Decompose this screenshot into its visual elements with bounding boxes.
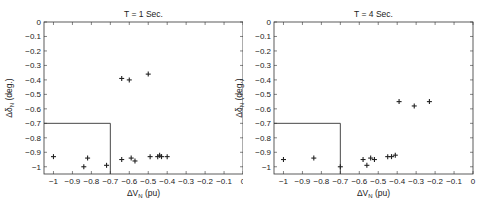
- x-tick-label: −0.5: [140, 177, 156, 186]
- chart-panel-t1: −1−0.9−0.8−0.7−0.6−0.5−0.4−0.3−0.2−0.100…: [0, 0, 243, 202]
- plot-frame: [274, 22, 473, 174]
- x-axis-label: ΔVN (pu): [127, 188, 160, 199]
- y-axis-label: ΔδN (deg.): [234, 78, 245, 118]
- data-point: [338, 164, 343, 169]
- data-point: [361, 157, 366, 162]
- x-tick-label: −0.9: [65, 177, 81, 186]
- data-point: [132, 158, 137, 163]
- chart-title: T = 1 Sec.: [124, 9, 163, 19]
- y-tick-label: −0.8: [25, 134, 41, 143]
- data-point: [146, 72, 151, 77]
- y-tick-label: −0.4: [255, 76, 271, 85]
- x-axis-label: ΔVN (pu): [357, 188, 390, 199]
- region-box: [274, 123, 340, 174]
- x-tick-label: −1: [49, 177, 59, 186]
- data-point: [119, 157, 124, 162]
- data-point: [104, 163, 109, 168]
- y-tick-label: −0.8: [255, 134, 271, 143]
- data-point: [412, 103, 417, 108]
- y-tick-label: 0: [37, 18, 42, 27]
- data-point: [281, 157, 286, 162]
- x-tick-label: −0.6: [121, 177, 137, 186]
- data-point: [364, 163, 369, 168]
- region-box: [44, 123, 110, 174]
- scatter-chart-t4: −1−0.9−0.8−0.7−0.6−0.5−0.4−0.3−0.2−0.100…: [230, 0, 487, 202]
- plot-frame: [44, 22, 243, 174]
- y-tick-label: −0.6: [255, 105, 271, 114]
- x-tick-label: −0.3: [178, 177, 194, 186]
- y-tick-label: −0.7: [255, 119, 271, 128]
- y-tick-label: −0.5: [25, 90, 41, 99]
- x-tick-label: 0: [471, 177, 476, 186]
- x-tick-label: −0.3: [408, 177, 424, 186]
- x-tick-label: −0.2: [427, 177, 443, 186]
- y-tick-label: −1: [32, 163, 42, 172]
- y-axis-label: ΔδN (deg.): [4, 78, 15, 118]
- y-tick-label: −0.9: [255, 148, 271, 157]
- x-tick-label: −0.2: [197, 177, 213, 186]
- data-point: [129, 156, 134, 161]
- scatter-chart-t1: −1−0.9−0.8−0.7−0.6−0.5−0.4−0.3−0.2−0.100…: [0, 0, 243, 202]
- x-tick-label: −0.6: [351, 177, 367, 186]
- data-point: [51, 154, 56, 159]
- x-tick-label: −0.7: [332, 177, 348, 186]
- y-tick-label: −0.2: [255, 47, 271, 56]
- x-tick-label: −0.8: [83, 177, 99, 186]
- y-tick-label: −0.6: [25, 105, 41, 114]
- y-tick-label: −0.1: [255, 32, 271, 41]
- y-tick-label: −0.3: [255, 61, 271, 70]
- data-point: [165, 154, 170, 159]
- y-tick-label: −0.7: [25, 119, 41, 128]
- x-tick-label: −0.5: [370, 177, 386, 186]
- x-tick-label: −1: [279, 177, 289, 186]
- y-tick-label: 0: [267, 18, 272, 27]
- data-point: [397, 99, 402, 104]
- y-tick-label: −0.4: [25, 76, 41, 85]
- y-tick-label: −0.2: [25, 47, 41, 56]
- x-tick-label: −0.4: [159, 177, 175, 186]
- data-point: [85, 156, 90, 161]
- y-tick-label: −1: [262, 163, 272, 172]
- data-point: [81, 164, 86, 169]
- data-point: [311, 156, 316, 161]
- x-tick-label: −0.9: [295, 177, 311, 186]
- x-tick-label: −0.7: [102, 177, 118, 186]
- data-point: [427, 99, 432, 104]
- data-point: [127, 77, 132, 82]
- data-point: [148, 154, 153, 159]
- chart-title: T = 4 Sec.: [354, 9, 393, 19]
- x-tick-label: −0.8: [313, 177, 329, 186]
- y-tick-label: −0.1: [25, 32, 41, 41]
- x-tick-label: −0.4: [389, 177, 405, 186]
- y-tick-label: −0.3: [25, 61, 41, 70]
- y-tick-label: −0.9: [25, 148, 41, 157]
- x-tick-label: −0.1: [446, 177, 462, 186]
- y-tick-label: −0.5: [255, 90, 271, 99]
- chart-panel-t4: −1−0.9−0.8−0.7−0.6−0.5−0.4−0.3−0.2−0.100…: [230, 0, 473, 202]
- data-point: [119, 76, 124, 81]
